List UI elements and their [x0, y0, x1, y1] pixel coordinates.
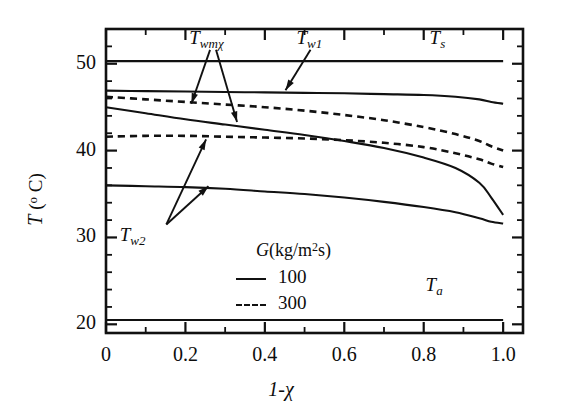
- figure-container: 20304050 00.20.40.60.81.0 T (o C) 1-χ Tw…: [0, 0, 562, 420]
- y-tick-label: 40: [58, 138, 96, 161]
- annotation-subscript: w2: [130, 233, 145, 248]
- annotation-label-tw2: Tw2: [120, 224, 146, 249]
- legend-title-symbol: G: [256, 240, 269, 260]
- x-axis-title: 1-χ: [0, 378, 562, 401]
- x-tick-label: 1.0: [463, 343, 543, 366]
- curve-twm-g-300-: [106, 97, 503, 151]
- annotation-label-ta: Ta: [426, 274, 443, 299]
- x-tick-label: 0.8: [384, 343, 464, 366]
- x-tick-label: 0: [66, 343, 146, 366]
- annotation-subscript: wmχ: [200, 36, 224, 51]
- arrow-tw2-to-dashed: [166, 139, 206, 224]
- legend-title: G(kg/m2s): [256, 240, 331, 261]
- y-tick-label: 20: [58, 311, 96, 334]
- arrow-tw1-to-curve: [286, 50, 311, 90]
- y-axis-title: T (o C): [18, 128, 52, 278]
- annotation-subscript: s: [440, 36, 445, 51]
- y-tick-label: 50: [58, 51, 96, 74]
- annotation-base: T: [430, 27, 441, 48]
- legend-swatch-100: [236, 278, 266, 280]
- axes-group: [106, 29, 523, 333]
- annotation-label-twm-: Twmχ: [189, 27, 223, 52]
- x-tick-label: 0.2: [145, 343, 225, 366]
- annotation-base: T: [120, 224, 131, 245]
- legend-title-tail: s): [318, 240, 331, 260]
- annotation-label-tw1: Tw1: [297, 27, 323, 52]
- annotation-base: T: [189, 27, 200, 48]
- arrow-tw2-to-solid: [166, 186, 208, 224]
- curve-twm-g-100-: [106, 107, 503, 215]
- x-tick-label: 0.6: [304, 343, 384, 366]
- annotation-label-ts: Ts: [430, 27, 446, 52]
- legend-label-100: 100: [278, 266, 307, 288]
- annotation-subscript: w1: [307, 36, 322, 51]
- annotation-subscript: a: [436, 282, 443, 297]
- legend-label-300: 300: [278, 292, 307, 314]
- y-tick-label: 30: [58, 224, 96, 247]
- legend-title-units: (kg/m: [269, 240, 312, 260]
- annotation-base: T: [297, 27, 308, 48]
- curve-tw2-g-100-: [106, 185, 503, 223]
- arrow-twmchi-to-dashed: [191, 50, 210, 104]
- x-tick-label: 0.4: [225, 343, 305, 366]
- annotation-base: T: [426, 274, 437, 295]
- legend-swatch-300: [236, 304, 266, 306]
- curve-tw1: [106, 91, 503, 104]
